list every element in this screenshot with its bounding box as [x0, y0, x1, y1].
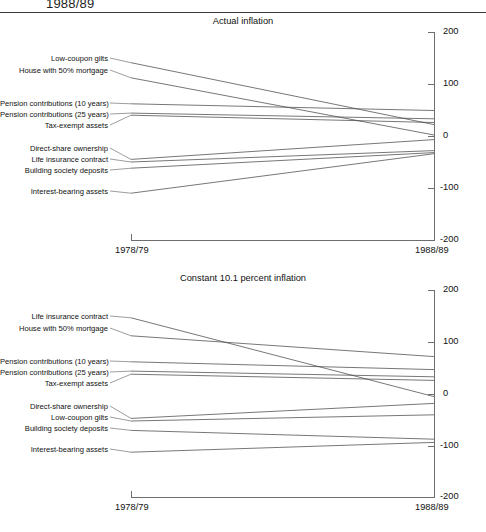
series-label-interest-bearing-top: Interest-bearing assets: [0, 187, 108, 196]
series-lines-bottom: [0, 266, 486, 532]
line-house-50-mortgage-bottom: [131, 336, 434, 357]
leader-pension-25-top: [110, 113, 131, 114]
series-label-house-50-mortgage-top: House with 50% mortgage: [0, 66, 108, 75]
leader-low-coupon-gilts-top: [110, 58, 131, 63]
series-label-pension-25-bottom: Pension contributions (25 years): [0, 368, 108, 377]
series-label-pension-10-bottom: Pension contributions (10 years): [0, 357, 108, 366]
line-pension-10-top: [131, 104, 434, 111]
series-label-direct-share-bottom: Direct-share ownership: [0, 402, 108, 411]
panel-actual-inflation: Actual inflation 200 100 0 -100 -200 197…: [0, 0, 486, 266]
series-label-building-society-top: Building society deposits: [0, 166, 108, 175]
series-lines-top: [0, 0, 486, 266]
line-tax-exempt-bottom: [131, 374, 434, 380]
leader-building-society-bottom: [110, 428, 131, 430]
series-label-interest-bearing-bottom: Interest-bearing assets: [0, 445, 108, 454]
series-label-direct-share-top: Direct-share ownership: [0, 144, 108, 153]
leader-life-insurance-top: [110, 159, 131, 162]
line-pension-10-bottom: [131, 362, 434, 370]
leader-house-50-mortgage-top: [110, 70, 131, 78]
series-label-life-insurance-top: Life insurance contract: [0, 155, 108, 164]
line-house-50-mortgage-top: [131, 78, 434, 135]
series-label-life-insurance-bottom: Life insurance contract: [0, 312, 108, 321]
line-life-insurance-bottom: [131, 318, 434, 397]
line-low-coupon-gilts-top: [131, 63, 434, 125]
leader-pension-25-bottom: [110, 371, 131, 372]
leader-pension-10-bottom: [110, 361, 131, 362]
leader-interest-bearing-top: [110, 191, 131, 193]
leader-direct-share-top: [110, 148, 131, 159]
series-label-low-coupon-gilts-top: Low-coupon gilts: [0, 54, 108, 63]
line-direct-share-bottom: [131, 403, 434, 418]
leader-interest-bearing-bottom: [110, 449, 131, 452]
series-label-house-50-mortgage-bottom: House with 50% mortgage: [0, 324, 108, 333]
leader-life-insurance-bottom: [110, 316, 131, 318]
series-label-building-society-bottom: Building society deposits: [0, 424, 108, 433]
leader-tax-exempt-top: [110, 115, 131, 125]
leader-pension-10-top: [110, 103, 131, 104]
leader-building-society-top: [110, 168, 131, 170]
series-label-pension-25-top: Pension contributions (25 years): [0, 110, 108, 119]
leader-tax-exempt-bottom: [110, 374, 131, 383]
series-label-tax-exempt-top: Tax-exempt assets: [0, 121, 108, 130]
line-low-coupon-gilts-bottom: [131, 415, 434, 421]
line-interest-bearing-bottom: [131, 442, 434, 452]
series-label-low-coupon-gilts-bottom: Low-coupon gilts: [0, 413, 108, 422]
leader-direct-share-bottom: [110, 406, 131, 418]
line-pension-25-bottom: [131, 371, 434, 377]
line-building-society-bottom: [131, 430, 434, 439]
line-interest-bearing-top: [131, 154, 434, 194]
leader-low-coupon-gilts-bottom: [110, 417, 131, 421]
panel-constant-inflation: Constant 10.1 percent inflation 200 100 …: [0, 266, 486, 532]
series-label-tax-exempt-bottom: Tax-exempt assets: [0, 379, 108, 388]
leader-house-50-mortgage-bottom: [110, 328, 131, 336]
series-label-pension-10-top: Pension contributions (10 years): [0, 99, 108, 108]
